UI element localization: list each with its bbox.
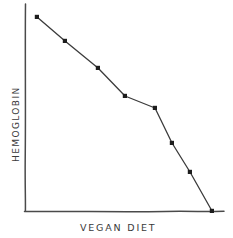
data-point-marker (170, 141, 174, 145)
x-axis-label: VEGAN DIET (80, 222, 156, 233)
data-point-marker (153, 106, 157, 110)
data-point-marker (35, 15, 39, 19)
data-point-marker (96, 66, 100, 70)
data-point-marker (210, 209, 214, 213)
chart-container: HEMOGLOBIN VEGAN DIET (0, 0, 233, 238)
data-series-line (37, 17, 212, 211)
data-point-marker (63, 39, 67, 43)
data-point-marker (188, 170, 192, 174)
data-point-marker (123, 94, 127, 98)
hand-drawn-line-chart: HEMOGLOBIN VEGAN DIET (0, 0, 233, 238)
y-axis-label: HEMOGLOBIN (11, 86, 21, 162)
